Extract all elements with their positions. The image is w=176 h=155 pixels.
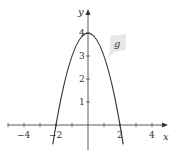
function-label-callout: g xyxy=(108,34,126,58)
function-label: g xyxy=(114,38,120,49)
x-axis-arrow-icon xyxy=(162,123,168,128)
x-tick-label: −2 xyxy=(49,130,62,140)
y-axis-label: y xyxy=(77,6,84,17)
curve-g xyxy=(53,33,88,144)
y-axis xyxy=(86,9,91,150)
x-axis-label: x xyxy=(163,131,169,142)
y-axis-arrow-icon xyxy=(86,9,91,15)
y-tick-label: 4 xyxy=(79,28,85,38)
y-tick-label: 1 xyxy=(79,97,85,107)
parabola-plot: g y x −4 −2 2 4 1 2 3 4 xyxy=(0,0,176,155)
x-tick-label: 2 xyxy=(117,130,123,140)
x-tick-label: −4 xyxy=(17,130,31,140)
x-tick-label: 4 xyxy=(149,130,155,140)
y-tick-label: 3 xyxy=(79,51,85,61)
y-tick-label: 2 xyxy=(79,74,85,84)
